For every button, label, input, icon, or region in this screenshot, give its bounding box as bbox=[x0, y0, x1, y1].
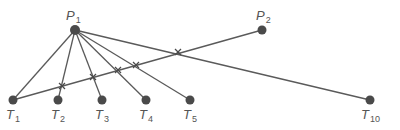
node-t2 bbox=[54, 96, 63, 105]
node-t4 bbox=[142, 96, 151, 105]
labels-group: P1P2T1T2T3T4T5T10 bbox=[6, 8, 380, 124]
node-p1 bbox=[70, 25, 80, 35]
label-t4: T4 bbox=[139, 107, 153, 124]
edge-p1-t1 bbox=[13, 30, 75, 100]
line-crossing-diagram: P1P2T1T2T3T4T5T10 bbox=[0, 0, 400, 130]
label-t10: T10 bbox=[361, 107, 380, 124]
edge-p1-t5 bbox=[75, 30, 190, 100]
label-p2: P2 bbox=[256, 8, 271, 25]
node-t5 bbox=[186, 96, 195, 105]
edge-p1-t3 bbox=[75, 30, 102, 100]
edges-group bbox=[13, 30, 370, 100]
node-t1 bbox=[9, 96, 18, 105]
node-t3 bbox=[98, 96, 107, 105]
label-t2: T2 bbox=[51, 107, 65, 124]
node-p2 bbox=[258, 26, 267, 35]
label-t1: T1 bbox=[6, 107, 20, 124]
label-p1: P1 bbox=[66, 8, 81, 25]
nodes-group bbox=[9, 25, 375, 105]
label-t3: T3 bbox=[95, 107, 109, 124]
label-t5: T5 bbox=[183, 107, 197, 124]
node-t10 bbox=[366, 96, 375, 105]
